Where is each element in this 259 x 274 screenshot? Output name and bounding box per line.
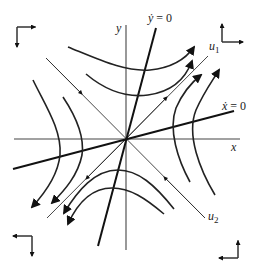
eigenvector-u1: u1 [47, 39, 220, 218]
trajectories-bottom [64, 170, 174, 224]
u2-label: u2 [208, 209, 219, 225]
corner-indicator-top-right [222, 24, 243, 42]
y-axis-label: y [115, 21, 122, 35]
corner-indicator-bottom-right [219, 240, 238, 258]
corner-indicator-top-left [17, 27, 36, 47]
trajectories-right [173, 70, 219, 195]
phase-portrait-diagram: x y u1 u2 ẏ = 0 ẋ = 0 [0, 0, 259, 274]
corner-indicator-bottom-left [13, 236, 32, 256]
u1-label: u1 [209, 39, 220, 55]
xdot-label: ẋ = 0 [221, 99, 246, 113]
trajectories-left [32, 80, 83, 207]
ydot-label: ẏ = 0 [147, 11, 172, 25]
x-axis-label: x [230, 140, 237, 154]
trajectories-top [68, 47, 194, 96]
